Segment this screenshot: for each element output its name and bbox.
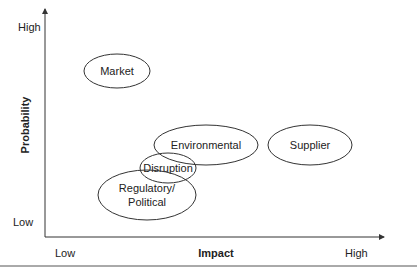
x-axis-title: Impact — [198, 247, 234, 259]
risk-diagram: High Low Probability Low Impact High Mar… — [0, 0, 417, 270]
risk-label-line-1: Regulatory/ — [119, 182, 176, 194]
y-axis-high-label: High — [18, 21, 41, 33]
risk-label: Environmental — [171, 139, 241, 151]
risk-disruption: Disruption — [140, 153, 196, 183]
y-axis-low-label: Low — [13, 216, 33, 228]
risk-label: Market — [100, 65, 134, 77]
y-axis-title: Probability — [19, 96, 31, 154]
x-axis-low-label: Low — [55, 247, 75, 259]
risk-label-line-2: Political — [128, 196, 166, 208]
risk-environmental: Environmental — [154, 125, 258, 165]
x-axis-high-label: High — [345, 247, 368, 259]
risk-label: Supplier — [290, 139, 331, 151]
risk-market: Market — [84, 54, 150, 88]
risk-supplier: Supplier — [268, 125, 352, 165]
